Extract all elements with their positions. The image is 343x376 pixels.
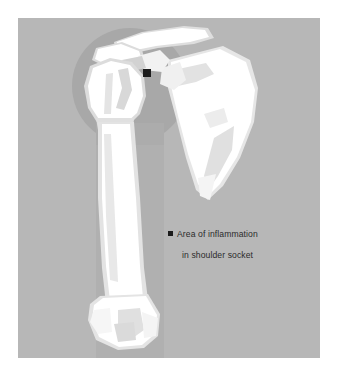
- legend-line-2: in shoulder socket: [168, 245, 313, 266]
- legend-line-2-text: in shoulder socket: [182, 250, 253, 260]
- legend-line-1-text: Area of inflammation: [177, 229, 258, 239]
- black-square-marker-icon: [168, 231, 173, 236]
- legend-line-1: Area of inflammation: [168, 224, 313, 245]
- anatomy-illustration-svg: [18, 18, 320, 358]
- legend-callout: Area of inflammation in shoulder socket: [168, 224, 313, 266]
- illustration-panel: Area of inflammation in shoulder socket: [18, 18, 320, 358]
- inflammation-site-marker: [143, 69, 151, 77]
- figure-root: Area of inflammation in shoulder socket: [0, 0, 343, 376]
